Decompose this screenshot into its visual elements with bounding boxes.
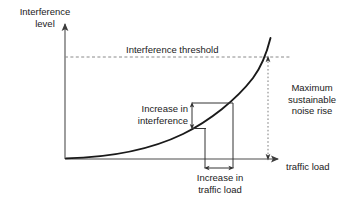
interference-vs-traffic-load-figure: Interference level Interference threshol… <box>0 0 352 201</box>
interference-curve <box>66 38 271 158</box>
max-sustainable-noise-rise-label: Maximum sustainable noise rise <box>274 82 350 117</box>
increase-in-interference-label: Increase in interference <box>110 103 188 126</box>
x-axis-label: traffic load <box>286 161 330 173</box>
y-axis-label: Interference level <box>6 6 84 29</box>
increase-in-traffic-load-label: Increase in traffic load <box>180 172 260 195</box>
interference-threshold-label: Interference threshold <box>126 44 218 56</box>
